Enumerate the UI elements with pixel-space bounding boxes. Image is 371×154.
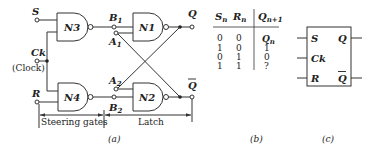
flip-flop-symbol: S Ck R Q Q (c) xyxy=(297,27,362,144)
table-row: 0 1 0 xyxy=(217,52,270,62)
node-b1 xyxy=(112,25,116,29)
svg-text:0: 0 xyxy=(236,33,242,43)
caption-b: (b) xyxy=(250,134,263,144)
header-qn1: Qn+1 xyxy=(258,11,283,24)
clock-note-label: (Clock) xyxy=(12,63,45,73)
pin-qbar-label: Q xyxy=(338,73,347,84)
caption-a: (a) xyxy=(108,134,121,144)
junction-dot-ck xyxy=(45,59,49,63)
svg-text:0: 0 xyxy=(217,33,223,43)
gate-label-n4: N4 xyxy=(63,92,80,103)
node-b2-label: B2 xyxy=(108,102,122,115)
terminal-q xyxy=(190,25,194,29)
table-row: 1 1 ? xyxy=(217,61,269,71)
inversion-bubble-icon xyxy=(88,25,93,30)
node-b1-label: B1 xyxy=(108,12,122,25)
gate-label-n2: N2 xyxy=(138,92,155,103)
input-ck-label: Ck xyxy=(31,47,46,58)
latch-label: Latch xyxy=(138,117,164,127)
input-s-label: S xyxy=(32,6,39,17)
terminal-s xyxy=(35,18,39,22)
inversion-bubble-icon xyxy=(164,25,169,30)
output-q-label: Q xyxy=(188,8,197,19)
pin-q-label: Q xyxy=(338,33,347,44)
node-b2 xyxy=(112,95,116,99)
terminal-r xyxy=(35,100,39,104)
nand-gate-n4: N4 xyxy=(58,83,93,111)
nand-gate-n1: N1 xyxy=(133,13,169,41)
nand-gate-n3: N3 xyxy=(57,13,93,41)
pin-r-label: R xyxy=(310,73,319,84)
truth-table: Sn Rn Qn+1 0 0 Qn 1 0 1 0 1 0 1 1 ? (b) xyxy=(213,9,283,144)
nand-gate-n2: N2 xyxy=(133,83,169,111)
svg-text:1: 1 xyxy=(236,61,242,71)
svg-text:?: ? xyxy=(264,61,269,71)
pin-s-label: S xyxy=(311,33,318,44)
logic-circuit: S Ck (Clock) R N3 N4 B1 xyxy=(12,6,197,144)
terminal-ck xyxy=(35,59,39,63)
steering-gates-label: Steering gates xyxy=(41,117,108,127)
output-qbar-label: Q xyxy=(188,80,197,91)
svg-text:1: 1 xyxy=(217,61,223,71)
terminal-qbar xyxy=(190,95,194,99)
inversion-bubble-icon xyxy=(88,95,93,100)
header-sn: Sn xyxy=(215,11,227,24)
input-r-label: R xyxy=(31,88,40,99)
caption-c: (c) xyxy=(322,134,335,144)
table-row: 1 0 1 xyxy=(217,43,270,53)
pin-ck-label: Ck xyxy=(311,53,326,64)
flip-flop-diagram: S Ck (Clock) R N3 N4 B1 xyxy=(0,0,371,154)
node-a1 xyxy=(114,31,118,35)
gate-label-n3: N3 xyxy=(63,22,80,33)
node-a1-label: A1 xyxy=(108,36,122,49)
gate-label-n1: N1 xyxy=(138,22,155,33)
inversion-bubble-icon xyxy=(164,95,169,100)
header-rn: Rn xyxy=(232,11,246,24)
